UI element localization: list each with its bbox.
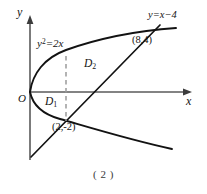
- region-label-d1: D1: [45, 96, 57, 109]
- line-equation-label: y=x−4: [148, 10, 177, 21]
- x-axis: [30, 89, 192, 96]
- origin-label: O: [18, 93, 26, 104]
- point-label-8-4: (8,4): [132, 35, 152, 46]
- y-axis-label: y: [17, 6, 22, 18]
- region-label-d2: D2: [84, 58, 96, 71]
- parabola-eq-rest: =2x: [46, 37, 64, 49]
- parabola-equation-label: y2=2x: [37, 38, 63, 49]
- region-d1-subscript: 1: [53, 100, 57, 109]
- math-figure: y x O y2=2x y=x−4 (8,4) (2,-2) D1 D2 ( 2…: [0, 0, 207, 194]
- region-d2-subscript: 2: [92, 62, 96, 71]
- point-label-2-minus2: (2,-2): [52, 122, 76, 133]
- figure-caption: ( 2 ): [0, 168, 207, 180]
- x-axis-label: x: [186, 95, 191, 107]
- figure-canvas: [0, 0, 207, 194]
